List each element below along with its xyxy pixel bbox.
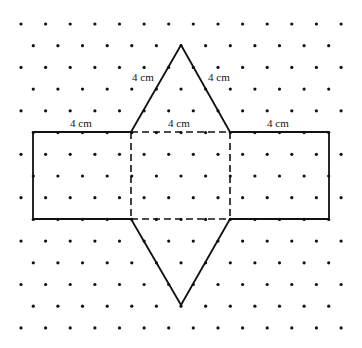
grid-dot (44, 22, 47, 25)
label-top-triangle-left: 4 cm (132, 71, 154, 83)
grid-dot (106, 261, 109, 264)
grid-dot (44, 240, 47, 243)
grid-dot (278, 305, 281, 308)
grid-dot (93, 283, 96, 286)
grid-dot (340, 240, 343, 243)
grid-dot (143, 22, 146, 25)
grid-dot (290, 240, 293, 243)
grid-dot (106, 305, 109, 308)
grid-dot (32, 44, 35, 47)
grid-dot (216, 326, 219, 329)
grid-dot (56, 261, 59, 264)
grid-dot (266, 196, 269, 199)
grid-dot (44, 326, 47, 329)
grid-dot (229, 305, 232, 308)
grid-dot (130, 305, 133, 308)
grid-dot (167, 240, 170, 243)
grid-dot (290, 66, 293, 69)
grid-dot (93, 240, 96, 243)
grid-dot (315, 196, 318, 199)
grid-dot (204, 44, 207, 47)
grid-dot (192, 109, 195, 112)
grid-dot (266, 66, 269, 69)
grid-dot (56, 44, 59, 47)
grid-dot (216, 22, 219, 25)
grid-dot (192, 196, 195, 199)
grid-dot (93, 66, 96, 69)
grid-dot (56, 305, 59, 308)
grid-dot (192, 153, 195, 156)
grid-dot (266, 240, 269, 243)
grid-dot (81, 174, 84, 177)
grid-dot (155, 174, 158, 177)
grid-dot (81, 261, 84, 264)
grid-dot (266, 22, 269, 25)
grid-dot (155, 305, 158, 308)
grid-dot (315, 283, 318, 286)
grid-dot (19, 196, 22, 199)
grid-dot (278, 174, 281, 177)
grid-dot (93, 196, 96, 199)
grid-dot (241, 109, 244, 112)
grid-dot (93, 22, 96, 25)
grid-dot (192, 326, 195, 329)
grid-dot (229, 261, 232, 264)
isometric-dot-grid (19, 22, 342, 329)
grid-dot (290, 283, 293, 286)
grid-dot (143, 196, 146, 199)
grid-dot (93, 109, 96, 112)
grid-dot (143, 326, 146, 329)
grid-dot (118, 153, 121, 156)
grid-dot (303, 174, 306, 177)
grid-dot (315, 153, 318, 156)
grid-dot (290, 109, 293, 112)
grid-dot (204, 305, 207, 308)
grid-dot (69, 326, 72, 329)
grid-dot (266, 283, 269, 286)
prism-net-diagram: 4 cm 4 cm 4 cm 4 cm 4 cm (0, 0, 362, 348)
grid-dot (44, 109, 47, 112)
grid-dot (290, 326, 293, 329)
grid-dot (253, 261, 256, 264)
grid-dot (179, 88, 182, 91)
grid-dot (69, 109, 72, 112)
grid-dot (118, 326, 121, 329)
grid-dot (56, 174, 59, 177)
grid-dot (167, 326, 170, 329)
grid-dot (229, 44, 232, 47)
label-left-rect-top: 4 cm (70, 117, 92, 129)
grid-dot (241, 153, 244, 156)
grid-dot (241, 283, 244, 286)
grid-dot (106, 44, 109, 47)
grid-dot (56, 88, 59, 91)
grid-dot (167, 22, 170, 25)
grid-dot (69, 196, 72, 199)
grid-dot (315, 326, 318, 329)
grid-dot (290, 22, 293, 25)
grid-dot (315, 22, 318, 25)
grid-dot (303, 261, 306, 264)
grid-dot (216, 196, 219, 199)
grid-dot (241, 240, 244, 243)
grid-dot (130, 261, 133, 264)
grid-dot (167, 109, 170, 112)
label-middle-rect-top: 4 cm (168, 117, 190, 129)
grid-dot (130, 88, 133, 91)
label-right-rect-top: 4 cm (267, 117, 289, 129)
grid-dot (106, 88, 109, 91)
grid-dot (253, 174, 256, 177)
grid-dot (81, 44, 84, 47)
grid-dot (303, 305, 306, 308)
grid-dot (204, 131, 207, 134)
grid-dot (19, 22, 22, 25)
grid-dot (167, 196, 170, 199)
grid-dot (278, 88, 281, 91)
grid-dot (327, 305, 330, 308)
grid-dot (253, 305, 256, 308)
grid-dot (32, 305, 35, 308)
grid-dot (19, 283, 22, 286)
grid-dot (192, 22, 195, 25)
grid-dot (19, 240, 22, 243)
grid-dot (19, 153, 22, 156)
grid-dot (143, 153, 146, 156)
